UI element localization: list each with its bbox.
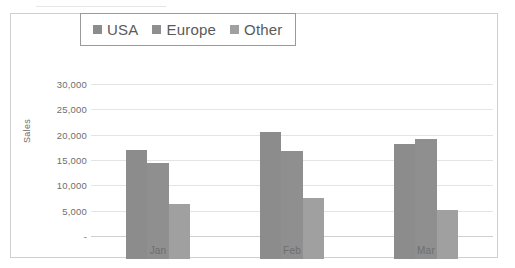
y-tick-label: 25,000 [31,104,87,115]
y-tick-label: 10,000 [31,180,87,191]
legend-item-europe[interactable]: Europe [152,21,216,38]
scan-artifact-line [36,6,166,7]
x-tick-label-jan: Jan [150,245,167,256]
chart-legend: USAEuropeOther [80,13,296,46]
chart-frame: Sales -5,00010,00015,00020,00025,00030,0… [10,13,498,258]
legend-swatch-other-icon [230,25,239,34]
x-tick-label-mar: Mar [417,245,435,256]
y-tick-label: 20,000 [31,129,87,140]
y-tick-label: 30,000 [31,79,87,90]
x-axis-tick-labels: JanFebMar [91,14,493,259]
legend-item-usa[interactable]: USA [93,21,138,38]
legend-item-label: Other [244,21,283,38]
y-axis-tick-labels: -5,00010,00015,00020,00025,00030,000 [31,14,87,259]
legend-item-label: USA [107,21,138,38]
chart-plot-area: Sales -5,00010,00015,00020,00025,00030,0… [11,14,499,259]
legend-swatch-usa-icon [93,25,102,34]
y-tick-label: - [31,231,87,242]
x-tick-label-feb: Feb [283,245,301,256]
y-tick-label: 5,000 [31,205,87,216]
legend-item-label: Europe [166,21,216,38]
legend-swatch-europe-icon [152,25,161,34]
legend-item-other[interactable]: Other [230,21,283,38]
y-tick-label: 15,000 [31,155,87,166]
